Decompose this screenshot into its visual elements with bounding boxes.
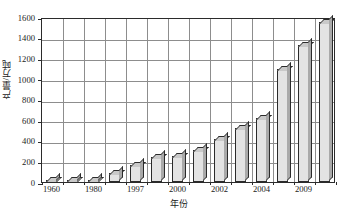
gridline-y [42, 40, 334, 41]
y-axis-tick [38, 142, 42, 143]
bar-side-face [329, 15, 333, 181]
y-axis-tick [38, 122, 42, 123]
y-axis-tick [38, 163, 42, 164]
gridline-x [189, 19, 190, 182]
x-axis-tick-label: 2002 [211, 185, 228, 194]
bar-side-face [245, 121, 249, 181]
y-axis-tick-label: 1000 [18, 76, 35, 85]
y-axis-tick-label: 1200 [18, 55, 35, 64]
bar [256, 118, 267, 182]
bar [130, 165, 141, 182]
x-axis-tick-label: 1997 [127, 185, 144, 194]
bar [151, 157, 162, 182]
y-axis-tick-label: 1400 [18, 34, 35, 43]
y-axis-tick [38, 19, 42, 20]
bar [172, 156, 183, 182]
bar-side-face [161, 150, 165, 181]
gridline-x [147, 19, 148, 182]
bar [109, 173, 120, 182]
bar [319, 22, 330, 182]
chart-figure: 产量/万吨 02004006008001000120014001600 1960… [0, 0, 345, 222]
gridline-x [315, 19, 316, 182]
y-axis-tick-label: 400 [22, 137, 35, 146]
gridline-x [84, 19, 85, 182]
bar-side-face [266, 111, 270, 181]
bar-side-face [308, 38, 312, 181]
y-axis-tick-label: 200 [22, 158, 35, 167]
gridline-x [231, 19, 232, 182]
plot-area [41, 18, 335, 183]
bar-side-face [203, 143, 207, 181]
bar [67, 180, 78, 182]
bar-top-face [46, 177, 62, 182]
x-axis-tick-label: 2004 [253, 185, 270, 194]
y-axis-tick [38, 39, 42, 40]
bar-top-face [67, 177, 83, 182]
bar-side-face [182, 149, 186, 181]
bar-side-face [287, 62, 291, 181]
x-axis-tick-label: 2009 [295, 185, 312, 194]
bar-top-face [88, 177, 104, 182]
bar-side-face [224, 132, 228, 181]
y-axis-tick [38, 60, 42, 61]
gridline-x [126, 19, 127, 182]
y-axis-tick-label: 600 [22, 117, 35, 126]
bar [46, 180, 57, 182]
gridline-x [294, 19, 295, 182]
y-axis-tick-label: 800 [22, 96, 35, 105]
bar-side-face [140, 158, 144, 181]
gridline-x [168, 19, 169, 182]
bar [298, 45, 309, 182]
y-axis-tick-label: 1600 [18, 14, 35, 23]
gridline-x [273, 19, 274, 182]
gridline-x [105, 19, 106, 182]
x-axis-tick-labels: 1960198019972000200220042009 [0, 185, 345, 199]
gridline-x [63, 19, 64, 182]
bar [214, 139, 225, 182]
x-axis-tick-label: 1980 [85, 185, 102, 194]
bar [235, 128, 246, 182]
x-axis-tick-label: 2000 [169, 185, 186, 194]
x-axis-title: 年份 [170, 199, 188, 209]
gridline-x [210, 19, 211, 182]
x-axis-tick-label: 1960 [43, 185, 60, 194]
bar [277, 69, 288, 182]
bar [88, 180, 99, 182]
gridline-x [252, 19, 253, 182]
bar-side-face [119, 166, 123, 181]
y-axis-tick [38, 101, 42, 102]
y-axis-tick [38, 80, 42, 81]
bar [193, 150, 204, 182]
